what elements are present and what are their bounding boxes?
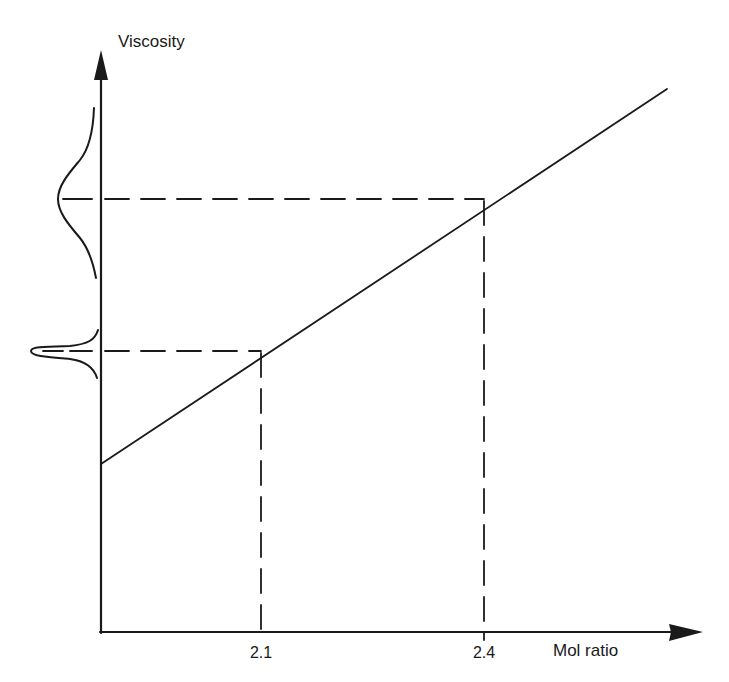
y-axis-arrowhead-icon (94, 50, 108, 80)
x-tick-2-4: 2.4 (473, 644, 495, 662)
narrow-distribution-curve (31, 330, 98, 378)
trend-line (101, 89, 667, 464)
broad-distribution-curve (58, 108, 96, 278)
x-tick-2-1: 2.1 (250, 644, 272, 662)
y-axis-label: Viscosity (118, 32, 185, 52)
viscosity-mol-ratio-diagram (0, 0, 729, 682)
x-axis-arrowhead-icon (669, 624, 703, 641)
x-axis-label: Mol ratio (553, 641, 618, 661)
